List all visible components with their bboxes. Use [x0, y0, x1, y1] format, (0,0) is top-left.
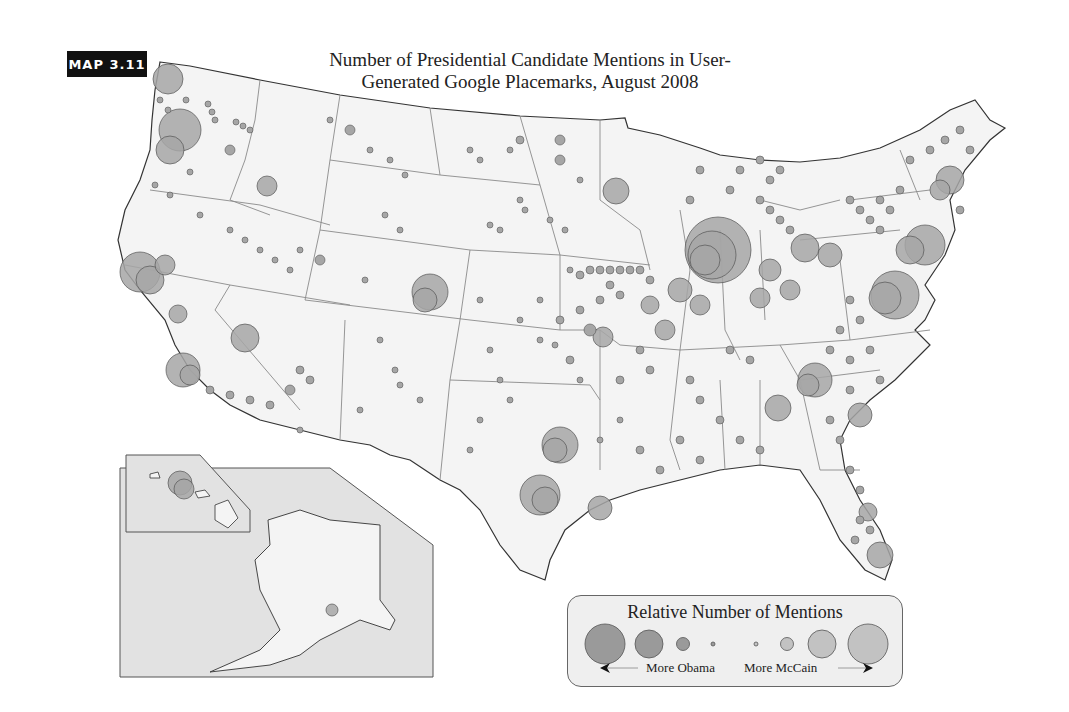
legend-box: Relative Number of Mentions More Obama M… — [567, 595, 903, 687]
legend-circle-mccain-medium — [808, 630, 836, 658]
us-map — [0, 0, 1069, 712]
legend-circle-mccain-large — [848, 624, 888, 664]
legend-circle-obama-small — [677, 638, 690, 651]
legend-circle-obama-large — [585, 624, 625, 664]
alaska-hawaii-inset — [120, 455, 433, 677]
legend-circle-obama-medium — [635, 630, 663, 658]
right-arrow-icon — [838, 663, 873, 673]
legend-label-mccain: More McCain — [744, 660, 817, 676]
legend-circle-mccain-tiny — [754, 642, 758, 646]
left-arrow-icon — [600, 663, 638, 673]
legend-graphics — [568, 596, 902, 686]
legend-label-obama: More Obama — [646, 660, 715, 676]
legend-circle-mccain-small — [781, 638, 794, 651]
legend-circle-obama-tiny — [711, 642, 715, 646]
